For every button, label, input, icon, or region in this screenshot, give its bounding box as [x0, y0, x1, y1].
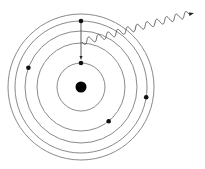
transition-arrowhead	[80, 56, 83, 60]
electron	[144, 95, 149, 100]
electron	[106, 119, 111, 124]
electrons	[26, 19, 148, 124]
electron	[26, 66, 31, 71]
electron	[79, 19, 84, 24]
bohr-atom-diagram	[0, 0, 205, 169]
nucleus	[76, 82, 87, 93]
photon-arrowhead	[189, 13, 194, 17]
electron	[79, 61, 84, 66]
